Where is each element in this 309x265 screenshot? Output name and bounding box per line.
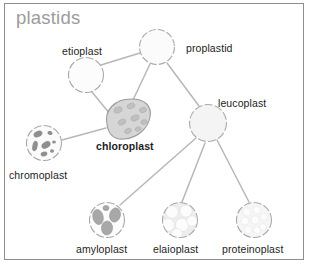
- node-label-chromoplast: chromoplast: [9, 170, 67, 181]
- edge-leucoplast-proteinoplast: [217, 140, 249, 202]
- node-chromoplast-icon[interactable]: [27, 126, 62, 161]
- node-label-elaioplast: elaioplast: [153, 244, 198, 255]
- node-amyloplast-icon[interactable]: [90, 203, 125, 238]
- edge-leucoplast-elaioplast: [182, 143, 205, 202]
- plain-circle-organelle: [190, 105, 227, 142]
- node-label-chloroplast: chloroplast: [96, 141, 154, 152]
- plain-circle-organelle: [140, 30, 175, 65]
- edge-proplastid-chloroplast: [133, 64, 150, 100]
- edge-proplastid-etioplast: [101, 53, 140, 65]
- plastid-hierarchy-diagram: [0, 0, 309, 265]
- edge-chloroplast-chromoplast: [62, 128, 106, 140]
- node-proplastid-icon[interactable]: [140, 30, 175, 65]
- plain-circle-organelle: [69, 58, 104, 93]
- diagram-stage: plastids: [0, 0, 309, 265]
- node-label-proteinoplast: proteinoplast: [222, 244, 283, 255]
- node-label-proplastid: proplastid: [186, 43, 233, 54]
- node-label-amyloplast: amyloplast: [76, 244, 127, 255]
- node-chloroplast-icon[interactable]: [107, 99, 151, 139]
- node-leucoplast-icon[interactable]: [190, 105, 227, 142]
- edge-proplastid-leucoplast: [167, 63, 199, 106]
- node-label-etioplast: etioplast: [62, 46, 102, 57]
- node-elaioplast-icon[interactable]: [162, 203, 198, 240]
- node-label-leucoplast: leucoplast: [218, 98, 266, 109]
- edge-etioplast-chloroplast: [92, 92, 110, 114]
- node-etioplast-icon[interactable]: [69, 58, 104, 93]
- node-proteinoplast-icon[interactable]: [237, 203, 272, 238]
